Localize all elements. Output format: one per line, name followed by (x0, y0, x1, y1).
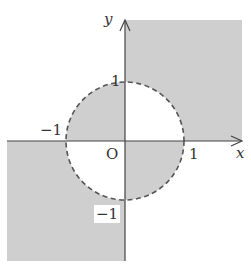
x-tick-neg: −1 (40, 121, 62, 139)
y-tick-neg: −1 (96, 205, 118, 223)
origin-label: O (106, 145, 118, 163)
x-axis-label: x (236, 144, 245, 162)
shaded-region-q4 (125, 141, 184, 200)
x-tick-pos: 1 (189, 145, 199, 163)
shaded-region-q1 (125, 20, 242, 141)
y-axis-label: y (103, 10, 113, 28)
region-diagram: y x O 1 −1 1 −1 (0, 0, 251, 271)
diagram-canvas: y x O 1 −1 1 −1 (0, 0, 251, 271)
shaded-region-q2 (66, 82, 125, 141)
y-tick-pos: 1 (111, 72, 121, 90)
